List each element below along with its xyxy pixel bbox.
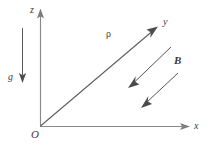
density-label: ρ — [106, 29, 111, 39]
gravity-vector — [19, 28, 26, 83]
magnetic-field-vector-1 — [128, 47, 171, 88]
x-axis-label: x — [194, 121, 198, 131]
magnetic-field-vector-2 — [141, 73, 178, 108]
origin-label: O — [31, 129, 39, 140]
x-axis — [40, 123, 190, 130]
magnetic-field-label: B — [174, 55, 181, 66]
y-axis-label: y — [163, 17, 167, 27]
z-axis-label: z — [30, 5, 34, 15]
diagram-canvas — [0, 0, 210, 146]
z-axis — [37, 9, 44, 127]
physics-diagram: z y x O g ρ B — [0, 0, 210, 146]
gravity-label: g — [8, 72, 13, 82]
